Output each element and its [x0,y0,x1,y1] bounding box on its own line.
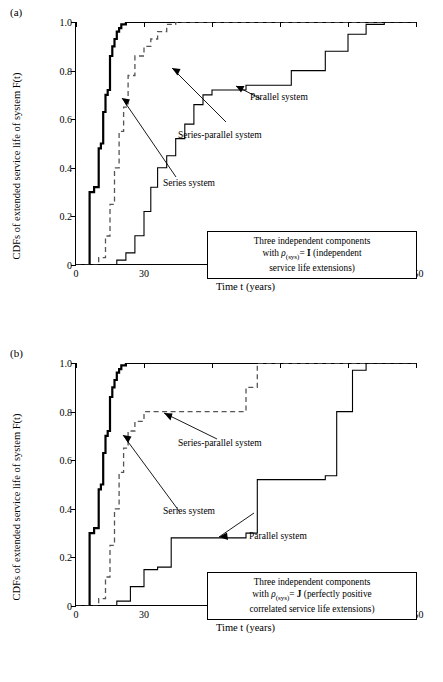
panel-b-xtick-1: 30 [139,609,149,620]
panel-b-x-axis-label: Time t (years) [216,622,275,633]
panel-a-textbox-line3: service life extensions) [214,263,410,275]
panel-b-y-axis-label: CDFs of extended service life of system … [2,401,18,621]
panel-b-textbox-line1: Three independent components [214,577,410,589]
chart-panel-a: (a) CDFs of extended service life of sys… [0,0,443,341]
figure-root: (a) CDFs of extended service life of sys… [0,0,443,682]
panel-a-textbox-line1: Three independent components [214,236,410,248]
panel-b-annotation-parallel-system: Parallel system [249,531,307,542]
panel-b-textbox-line3: correlated service life extensions) [214,604,410,616]
panel-a-annotation-parallel-system: Parallel system [250,92,308,103]
panel-a-textbox-line2: with ρ(sys)= I (independent [214,248,410,263]
panel-b-tag: (b) [10,347,23,359]
panel-a-tag: (a) [10,6,22,18]
sys-subscript: (sys) [276,593,290,601]
panel-b-textbox: Three independent components with ρ(sys)… [207,572,417,620]
panel-a-xtick-1: 30 [139,268,149,279]
panel-b-annotation-series-parallel-system: Series-parallel system [178,438,262,449]
panel-b-xtick-0: 0 [74,609,79,620]
panel-b-plot-area: 0 0.2 0.4 0.6 0.8 1.0 0 30 60 90 120 150 [75,363,415,606]
panel-a-x-axis-label: Time t (years) [216,281,275,292]
panel-a-y-axis-label: CDFs of extended service life of system … [2,60,18,280]
panel-a-xtick-0: 0 [74,268,79,279]
panel-b-annotation-series-system: Series system [163,506,215,517]
panel-a-leader-lines [76,22,416,265]
panel-a-annotation-series-system: Series system [163,178,215,189]
panel-b-textbox-line2: with ρ(sys)= J (perfectly positive [214,589,410,604]
chart-panel-b: (b) CDFs of extended service life of sys… [0,341,443,682]
panel-a-annotation-series-parallel-system: Series-parallel system [178,130,262,141]
panel-a-plot-area: 0 0.2 0.4 0.6 0.8 1.0 0 30 60 90 120 150 [75,22,415,265]
panel-a-textbox: Three independent components with ρ(sys)… [207,231,417,279]
sys-subscript: (sys) [286,252,300,260]
panel-b-leader-lines [76,363,416,606]
